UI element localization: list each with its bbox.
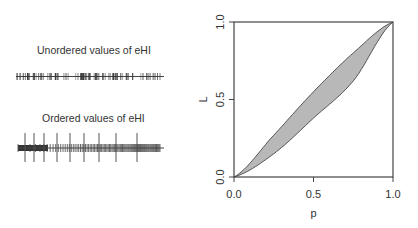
- unordered-strip: [16, 73, 164, 80]
- figure-canvas: 0.0 0.5 1.0 p 0.0 0.5 1.0 L: [0, 0, 418, 228]
- lorenz-plot: 0.0 0.5 1.0 p 0.0 0.5 1.0 L: [197, 14, 401, 219]
- x-tick-0: 0.0: [226, 188, 241, 200]
- y-tick-0: 0.0: [214, 169, 226, 184]
- y-tick-05: 0.5: [214, 92, 226, 107]
- y-tick-1: 1.0: [214, 14, 226, 29]
- x-axis-label: p: [310, 207, 316, 219]
- x-tick-05: 0.5: [306, 188, 321, 200]
- area-between-curves: [234, 22, 393, 177]
- x-tick-1: 1.0: [385, 188, 400, 200]
- y-axis-label: L: [197, 96, 209, 102]
- ordered-strip: [18, 133, 164, 162]
